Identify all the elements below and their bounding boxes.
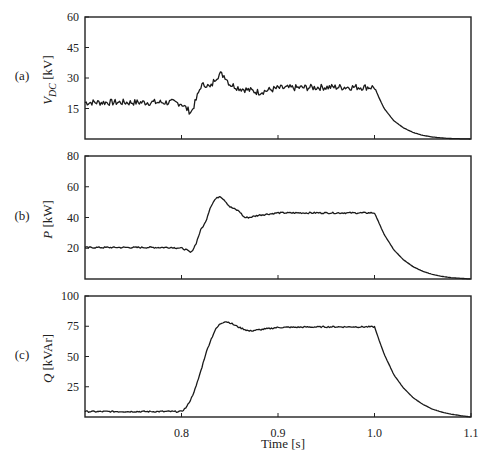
plot-frame: [85, 17, 471, 139]
panel-label: (a): [15, 68, 29, 83]
figure: 15304560(a)VDC [kV]20406080(b)P [kW]2550…: [0, 0, 490, 470]
x-tick-label: 0.8: [174, 426, 189, 440]
y-axis-label: VDC [kV]: [40, 55, 58, 105]
y-axis-label: Q [kVAr]: [40, 334, 55, 383]
panels-group: 15304560(a)VDC [kV]20406080(b)P [kW]2550…: [14, 10, 478, 440]
x-axis-label: Time [s]: [261, 436, 305, 451]
panel-c: 2550751000.80.91.01.1(c)Q [kVAr]: [15, 289, 479, 440]
panel-a: 15304560(a)VDC [kV]: [15, 10, 471, 139]
y-tick-label: 80: [67, 149, 79, 163]
y-tick-label: 75: [67, 319, 79, 333]
panel-b: 20406080(b)P [kW]: [14, 149, 471, 279]
series-line-vdc: [85, 72, 471, 139]
x-tick-label: 1.1: [464, 426, 479, 440]
y-tick-label: 60: [67, 180, 79, 194]
series-line-p: [85, 197, 471, 279]
y-tick-label: 40: [67, 211, 79, 225]
y-tick-label: 15: [67, 102, 79, 116]
series-line-q: [85, 322, 471, 417]
y-axis-label: P [kW]: [40, 200, 55, 240]
y-tick-label: 30: [67, 71, 79, 85]
panel-label: (b): [14, 208, 29, 223]
plot-frame: [85, 156, 471, 279]
x-tick-label: 1.0: [367, 426, 382, 440]
y-tick-label: 100: [61, 289, 79, 303]
y-tick-label: 20: [67, 241, 79, 255]
panel-label: (c): [15, 347, 29, 362]
y-tick-label: 25: [67, 380, 79, 394]
y-tick-label: 60: [67, 10, 79, 24]
y-tick-label: 45: [67, 41, 79, 55]
y-tick-label: 50: [67, 350, 79, 364]
plot-frame: [85, 296, 471, 417]
